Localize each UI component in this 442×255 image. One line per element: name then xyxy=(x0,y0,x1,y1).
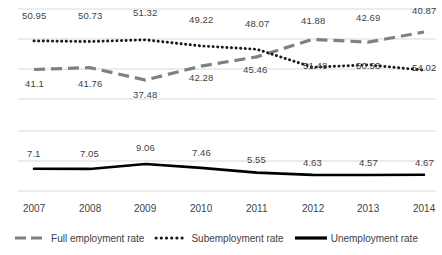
data-label-subemployment-2012: 41.88 xyxy=(301,15,325,26)
x-axis-tick-2009: 2009 xyxy=(134,203,156,214)
data-label-full-employment-2013: 50.53 xyxy=(356,60,380,71)
legend-entry-subemployment-rate[interactable]: Subemployment rate xyxy=(154,233,293,244)
data-label-subemployment-2013: 42.69 xyxy=(356,12,380,23)
chart-legend: Full employment rate Subemployment rate … xyxy=(0,228,442,248)
x-axis-tick-2012: 2012 xyxy=(302,203,324,214)
data-label-full-employment-2009: 37.48 xyxy=(133,89,157,100)
legend-label-full-employment-rate: Full employment rate xyxy=(51,233,154,244)
data-label-unemployment-2010: 7.46 xyxy=(192,147,211,158)
data-label-unemployment-2009: 9.06 xyxy=(136,142,155,153)
data-label-unemployment-2008: 7.05 xyxy=(80,148,99,159)
solid-line-icon xyxy=(294,233,328,243)
data-label-full-employment-2010: 42.28 xyxy=(189,72,213,83)
data-label-subemployment-2014: 40.87 xyxy=(412,5,436,16)
data-label-subemployment-2009: 51.32 xyxy=(133,7,157,18)
x-axis-tick-2010: 2010 xyxy=(190,203,212,214)
data-label-subemployment-2010: 49.22 xyxy=(189,14,213,25)
data-label-full-employment-2012: 51.48 xyxy=(303,60,327,71)
data-label-full-employment-2011: 45.46 xyxy=(243,64,267,75)
legend-entry-full-employment-rate[interactable]: Full employment rate xyxy=(14,233,154,244)
data-label-unemployment-2007: 7.1 xyxy=(27,148,41,159)
x-axis-tick-2013: 2013 xyxy=(357,203,379,214)
data-label-subemployment-2008: 50.73 xyxy=(78,10,102,21)
data-label-subemployment-2007: 50.95 xyxy=(22,10,46,21)
legend-label-unemployment-rate: Unemployment rate xyxy=(331,233,428,244)
dotted-line-icon xyxy=(154,233,188,243)
employment-rates-chart: 50.9550.7351.3249.2248.0741.8842.6940.87… xyxy=(0,0,442,255)
data-label-unemployment-2011: 5.55 xyxy=(247,154,266,165)
chart-canvas xyxy=(0,0,442,255)
data-label-unemployment-2012: 4.63 xyxy=(303,157,322,168)
x-axis-tick-2008: 2008 xyxy=(79,203,101,214)
data-label-subemployment-2011: 48.07 xyxy=(245,18,269,29)
data-label-unemployment-2013: 4.57 xyxy=(359,157,378,168)
x-axis-tick-2011: 2011 xyxy=(246,203,268,214)
x-axis-tick-2007: 2007 xyxy=(23,203,45,214)
dashed-line-icon xyxy=(14,233,48,243)
data-label-full-employment-2007: 41.1 xyxy=(25,78,44,89)
legend-entry-unemployment-rate[interactable]: Unemployment rate xyxy=(294,233,428,244)
data-label-full-employment-2014: 54.02 xyxy=(412,62,436,73)
x-axis-tick-2014: 2014 xyxy=(413,203,435,214)
legend-label-subemployment-rate: Subemployment rate xyxy=(191,233,293,244)
data-label-unemployment-2014: 4.67 xyxy=(415,157,434,168)
data-label-full-employment-2008: 41.76 xyxy=(78,78,102,89)
